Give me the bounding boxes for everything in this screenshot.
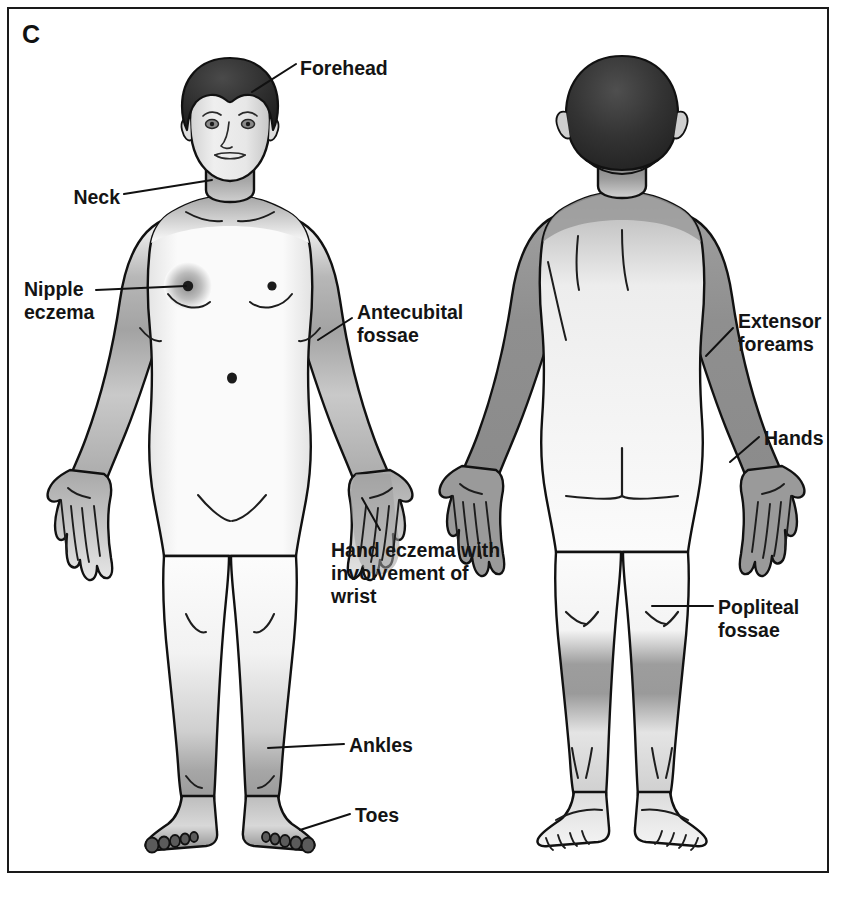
label-ankles: Ankles — [349, 734, 413, 757]
figure-panel-c: C — [0, 0, 844, 907]
label-antecubital-fossae: Antecubital fossae — [357, 301, 463, 347]
label-toes: Toes — [355, 804, 399, 827]
leader-neck — [124, 180, 212, 194]
label-forehead: Forehead — [300, 57, 388, 80]
label-popliteal-fossae: Popliteal fossae — [718, 596, 799, 642]
label-hand-eczema: Hand eczema with involvement of wrist — [331, 539, 500, 608]
label-nipple-eczema: Nipple eczema — [24, 278, 94, 324]
label-extensor-forearms: Extensor foreams — [738, 310, 821, 356]
label-hands: Hands — [764, 427, 824, 450]
body-diagram-illustration — [0, 0, 844, 907]
posterior-figure — [440, 56, 805, 850]
label-neck: Neck — [70, 186, 120, 209]
leader-toes — [300, 814, 350, 830]
